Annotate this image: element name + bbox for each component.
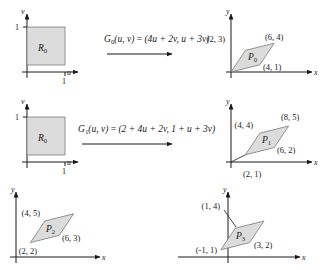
x-axis-label: x bbox=[313, 158, 318, 167]
vertex-label-p1-c: (6, 2) bbox=[277, 145, 296, 155]
u-tick-label: 1 bbox=[62, 77, 66, 86]
u-axis-label: u bbox=[67, 68, 71, 77]
transformation-g1: G1(u, v) = (2 + 4u + 2v, 1 + u + 3v) bbox=[78, 124, 215, 144]
panel-domain-0: u v 1 1 R0 bbox=[15, 7, 78, 86]
v-tick-label: 1 bbox=[15, 23, 19, 32]
transformation-g0: G0(u, v) = (4u + 2v, u + 3v) bbox=[104, 34, 209, 54]
region-r0-square bbox=[27, 27, 65, 65]
transformation-figure: u v 1 1 R0 G0(u, v) = (4u + 2v, u + 3v) … bbox=[0, 0, 320, 270]
region-r0-square bbox=[27, 117, 65, 155]
v-tick-label: 1 bbox=[15, 113, 19, 122]
figure-container: u v 1 1 R0 G0(u, v) = (4u + 2v, u + 3v) … bbox=[0, 0, 320, 270]
vertex-label-p3-a: (1, 4) bbox=[202, 201, 221, 211]
x-axis-label: x bbox=[301, 253, 306, 262]
y-axis-label: y bbox=[225, 7, 230, 16]
panel-domain-1: u v 1 1 R0 bbox=[15, 97, 78, 176]
panel-image-3: P3 (1, 4) (3, 2) (-1, 1) x y bbox=[178, 185, 306, 263]
vertex-label-p2-b: (6, 3) bbox=[62, 233, 81, 243]
x-axis-label: x bbox=[313, 68, 318, 77]
leader-line-p1-origin bbox=[231, 155, 245, 162]
panel-image-2: P2 (4, 5) (6, 3) (2, 2) x y bbox=[10, 185, 106, 263]
vertex-label-p3-c: (-1, 1) bbox=[196, 245, 217, 255]
vertex-label-p1-b: (8, 5) bbox=[281, 112, 300, 122]
vertex-label-p0-b: (6, 4) bbox=[265, 32, 284, 42]
leader-line-p3-vertex bbox=[224, 210, 236, 227]
vertex-label-p2-a: (4, 5) bbox=[22, 208, 41, 218]
vertex-label-p1-d: (2, 1) bbox=[243, 169, 262, 179]
vertex-label-p0-a: (2, 3) bbox=[207, 34, 226, 44]
v-axis-label: v bbox=[21, 7, 25, 16]
y-axis-label: y bbox=[222, 185, 227, 194]
u-axis-label: u bbox=[67, 158, 71, 167]
panel-image-1: P1 (4, 4) (8, 5) (6, 2) (2, 1) x y bbox=[225, 97, 318, 179]
formula-g0-text: G0(u, v) = (4u + 2v, u + 3v) bbox=[104, 34, 209, 45]
vertex-label-p0-c: (4, 1) bbox=[263, 62, 282, 72]
formula-g1-text: G1(u, v) = (2 + 4u + 2v, 1 + u + 3v) bbox=[78, 124, 215, 135]
y-axis-label: y bbox=[225, 97, 230, 106]
y-axis-label: y bbox=[10, 185, 15, 194]
vertex-label-p1-a: (4, 4) bbox=[235, 120, 254, 130]
v-axis-label: v bbox=[21, 97, 25, 106]
vertex-label-p2-c: (2, 2) bbox=[19, 246, 38, 256]
u-tick-label: 1 bbox=[62, 167, 66, 176]
vertex-label-p3-b: (3, 2) bbox=[254, 240, 273, 250]
x-axis-label: x bbox=[101, 253, 106, 262]
panel-image-0: P0 (2, 3) (6, 4) (4, 1) x y bbox=[207, 7, 318, 78]
